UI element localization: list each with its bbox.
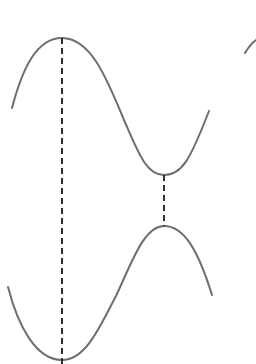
wave-diagram [0,0,256,364]
upper-wave-curve [12,38,209,175]
lower-wave-curve [8,226,212,360]
edge-curve-fragment [245,40,256,53]
